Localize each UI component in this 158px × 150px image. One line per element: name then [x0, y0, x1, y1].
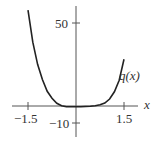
chart: −1.5 1.5 50 −10 x q(x): [0, 0, 158, 150]
ytick-label-top: 50: [55, 16, 68, 31]
curve-label: q(x): [119, 68, 140, 83]
xtick-label-pos: 1.5: [116, 111, 132, 126]
xtick-label-neg: −1.5: [14, 111, 38, 126]
x-axis-label: x: [143, 97, 150, 112]
ytick-label-bottom: −10: [49, 116, 69, 131]
